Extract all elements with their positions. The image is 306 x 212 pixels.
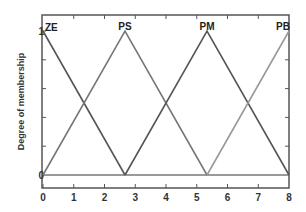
x-tick-0: 0 [40,192,46,203]
label-pm: PM [200,21,215,32]
x-tick-5: 5 [194,192,200,203]
x-tick-labels: 0 1 2 3 4 5 6 7 8 [40,192,292,203]
series-pm [125,31,289,175]
label-ze: ZE [45,22,58,33]
x-ticks [43,15,258,188]
y-ticks [42,31,289,146]
label-pb: PB [276,21,290,32]
series-ps [43,31,207,175]
label-ps: PS [118,21,132,32]
x-tick-8: 8 [286,192,292,203]
x-tick-1: 1 [71,192,77,203]
x-tick-2: 2 [102,192,108,203]
x-tick-7: 7 [255,192,261,203]
x-tick-3: 3 [132,192,138,203]
x-tick-4: 4 [163,192,169,203]
x-tick-6: 6 [225,192,231,203]
y-axis-label: Degree of membership [16,52,26,150]
membership-chart: 0 1 2 3 4 5 6 7 8 0 1 Degree of membersh… [0,0,306,212]
